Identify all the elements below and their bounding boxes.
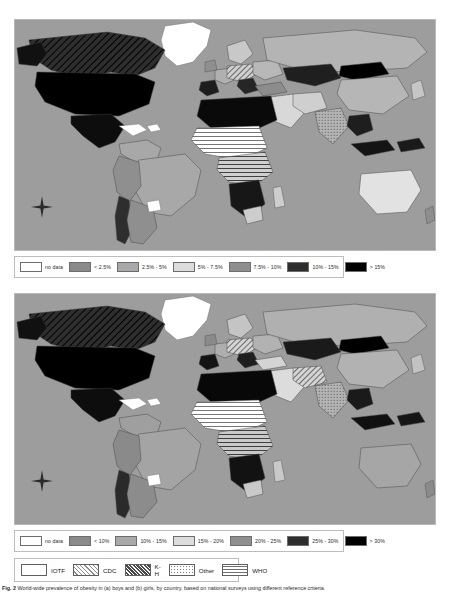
legend-label: 20% - 25% — [255, 538, 281, 544]
legend-item: 7.5% - 10% — [229, 262, 282, 272]
legend-item: 20% - 25% — [230, 536, 281, 546]
world-map-boys — [14, 19, 436, 251]
legend-label: 25% - 30% — [312, 538, 338, 544]
caption-label: Fig. 2 — [2, 585, 16, 591]
legend-item: no data — [20, 262, 63, 272]
criteria-item-kh: K-H — [125, 563, 161, 577]
criteria-item-iotf: IOTF — [21, 564, 65, 576]
criteria-label-who: WHO — [252, 567, 267, 574]
legend-item: 2.5% - 5% — [117, 262, 167, 272]
legend-swatch — [287, 536, 309, 546]
legend-swatch — [20, 262, 42, 272]
figure-caption: Fig. 2 World-wide prevalence of obesity … — [2, 585, 447, 594]
legend-label: 5% - 7.5% — [198, 264, 223, 270]
legend-item: < 10% — [69, 536, 109, 546]
legend-label: 2.5% - 5% — [142, 264, 167, 270]
criteria-label-kh: K-H — [155, 563, 161, 577]
legend-swatch — [229, 262, 251, 272]
legend-swatch — [173, 262, 195, 272]
legend-item: > 15% — [345, 262, 385, 272]
legend-label: < 2.5% — [94, 264, 111, 270]
criteria-swatch-cdc — [73, 564, 99, 576]
legend-label: no data — [45, 264, 63, 270]
legend-swatch — [173, 536, 195, 546]
criteria-swatch-kh — [125, 564, 151, 576]
legend-label: 15% - 20% — [198, 538, 224, 544]
criteria-item-other: Other — [169, 564, 214, 576]
criteria-label-cdc: CDC — [103, 567, 116, 574]
legend-swatch — [115, 536, 137, 546]
criteria-item-who: WHO — [222, 564, 267, 576]
criteria-item-cdc: CDC — [73, 564, 116, 576]
compass-rose — [31, 196, 53, 218]
criteria-label-iotf: IOTF — [51, 567, 65, 574]
legend-label: 7.5% - 10% — [254, 264, 282, 270]
legend-swatch — [287, 262, 309, 272]
legend-item: 10% - 15% — [115, 536, 166, 546]
legend-swatch — [230, 536, 252, 546]
legend-swatch — [20, 536, 42, 546]
legend-label: 10% - 15% — [140, 538, 166, 544]
map-canvas-boys — [15, 20, 435, 250]
legend-swatch — [345, 262, 367, 272]
prevalence-legend-boys: no data < 2.5% 2.5% - 5% 5% - 7.5% 7.5% … — [14, 256, 344, 278]
prevalence-legend-girls: no data < 10% 10% - 15% 15% - 20% 20% - … — [14, 530, 344, 552]
world-map-girls — [14, 293, 436, 525]
legend-label: > 15% — [370, 264, 385, 270]
figure-container: no data < 2.5% 2.5% - 5% 5% - 7.5% 7.5% … — [0, 0, 449, 594]
legend-label: no data — [45, 538, 63, 544]
legend-label: < 10% — [94, 538, 109, 544]
legend-swatch — [117, 262, 139, 272]
legend-swatch — [69, 262, 91, 272]
caption-text: World-wide prevalence of obesity in (a) … — [18, 585, 326, 591]
legend-swatch — [69, 536, 91, 546]
legend-item: 25% - 30% — [287, 536, 338, 546]
legend-item: 5% - 7.5% — [173, 262, 223, 272]
criteria-swatch-iotf — [21, 564, 47, 576]
reference-criteria-legend: IOTF CDC K-H Other WHO — [14, 558, 239, 582]
legend-item: < 2.5% — [69, 262, 111, 272]
legend-swatch — [345, 536, 367, 546]
legend-item: 10% - 15% — [287, 262, 338, 272]
legend-item: 15% - 20% — [173, 536, 224, 546]
legend-label: > 30% — [370, 538, 385, 544]
criteria-label-other: Other — [199, 567, 214, 574]
legend-item: no data — [20, 536, 63, 546]
compass-rose — [31, 470, 53, 492]
criteria-swatch-other — [169, 564, 195, 576]
legend-item: > 30% — [345, 536, 385, 546]
criteria-swatch-who — [222, 564, 248, 576]
legend-label: 10% - 15% — [312, 264, 338, 270]
map-canvas-girls — [15, 294, 435, 524]
